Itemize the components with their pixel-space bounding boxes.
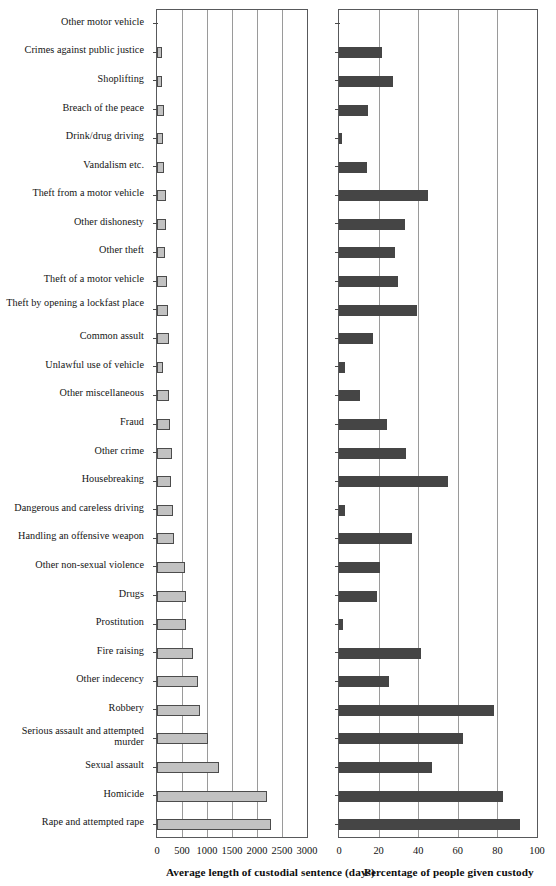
bar: [339, 791, 503, 802]
category-label: Breach of the peace: [0, 103, 148, 114]
bar: [339, 419, 387, 430]
bar: [339, 762, 432, 773]
bar: [339, 333, 373, 344]
bar: [157, 791, 267, 802]
bar: [157, 47, 162, 58]
bar: [339, 562, 380, 573]
bar: [157, 362, 163, 373]
bar: [157, 76, 162, 87]
category-label: Robbery: [0, 703, 148, 714]
category-label: Prostitution: [0, 617, 148, 628]
bar: [157, 276, 167, 287]
bar: [339, 105, 368, 116]
bar: [157, 705, 200, 716]
bar: [157, 591, 186, 602]
bar: [157, 533, 174, 544]
bar: [157, 419, 170, 430]
category-label: Fire raising: [0, 646, 148, 657]
bar: [339, 305, 417, 316]
bar: [339, 505, 345, 516]
x-tick-label: 1000: [197, 845, 218, 856]
bar: [157, 333, 169, 344]
bar: [339, 133, 342, 144]
category-label: Other motor vehicle: [0, 17, 148, 28]
x-tick-label: 500: [174, 845, 190, 856]
category-label: Fraud: [0, 417, 148, 428]
category-label: Rape and attempted rape: [0, 817, 148, 828]
bar: [339, 76, 393, 87]
category-label: Other dishonesty: [0, 217, 148, 228]
bar: [157, 133, 163, 144]
category-label: Sexual assault: [0, 760, 148, 771]
x-tick-label: 2500: [272, 845, 293, 856]
category-label: Drugs: [0, 589, 148, 600]
bar: [157, 648, 193, 659]
bar: [157, 505, 173, 516]
category-label: Dangerous and careless driving: [0, 503, 148, 514]
bar: [339, 219, 405, 230]
bar: [157, 105, 164, 116]
bar: [339, 362, 345, 373]
x-tick-label: 0: [154, 845, 159, 856]
category-label: Housebreaking: [0, 474, 148, 485]
category-label: Serious assault and attempted murder: [0, 726, 148, 747]
gridline: [207, 10, 208, 837]
bar: [157, 219, 166, 230]
category-label: Unlawful use of vehicle: [0, 360, 148, 371]
bar: [339, 190, 428, 201]
category-label: Other indecency: [0, 674, 148, 685]
category-label: Drink/drug driving: [0, 131, 148, 142]
bar: [339, 676, 389, 687]
x-tick-label: 2000: [247, 845, 268, 856]
gridline: [497, 10, 498, 837]
x-tick-label: 3000: [297, 845, 318, 856]
x-tick-label: 100: [529, 845, 545, 856]
bar: [339, 276, 398, 287]
category-label: Crimes against public justice: [0, 45, 148, 56]
bar: [157, 305, 168, 316]
category-label: Shoplifting: [0, 74, 148, 85]
bar: [339, 47, 382, 58]
category-label: Theft of a motor vehicle: [0, 274, 148, 285]
bar: [339, 533, 412, 544]
bar: [339, 448, 406, 459]
category-label: Theft by opening a lockfast place: [0, 298, 148, 309]
bar: [339, 591, 377, 602]
category-label: Other crime: [0, 446, 148, 457]
bar: [157, 819, 271, 830]
category-label: Other miscellaneous: [0, 388, 148, 399]
x-tick-label: 0: [336, 845, 341, 856]
bar: [157, 733, 208, 744]
bar: [339, 390, 360, 401]
bar: [157, 247, 165, 258]
bar: [339, 476, 448, 487]
category-tick: [153, 23, 158, 24]
x-tick-label: 20: [373, 845, 383, 856]
x-axis-title-panel-a: Average length of custodial sentence (da…: [166, 866, 375, 878]
category-label: Theft from a motor vehicle: [0, 188, 148, 199]
x-tick-label: 1500: [222, 845, 243, 856]
gridline: [257, 10, 258, 837]
bar: [339, 648, 421, 659]
x-tick-label: 40: [413, 845, 423, 856]
bar: [157, 762, 219, 773]
bar: [339, 819, 520, 830]
bar: [339, 619, 343, 630]
bar: [157, 448, 172, 459]
category-label: Handling an offensive weapon: [0, 531, 148, 542]
bar: [339, 733, 463, 744]
gridline: [232, 10, 233, 837]
bar: [157, 190, 166, 201]
bar: [339, 247, 395, 258]
bar: [157, 390, 169, 401]
category-label: Common assult: [0, 331, 148, 342]
bar: [157, 562, 185, 573]
category-tick: [335, 23, 340, 24]
bar: [157, 476, 171, 487]
x-axis-title-panel-b: Percentage of people given custody: [364, 866, 534, 878]
x-tick-label: 80: [492, 845, 502, 856]
category-label: Vandalism etc.: [0, 160, 148, 171]
category-label: Other non-sexual violence: [0, 560, 148, 571]
bar: [339, 162, 367, 173]
category-label: Homicide: [0, 789, 148, 800]
